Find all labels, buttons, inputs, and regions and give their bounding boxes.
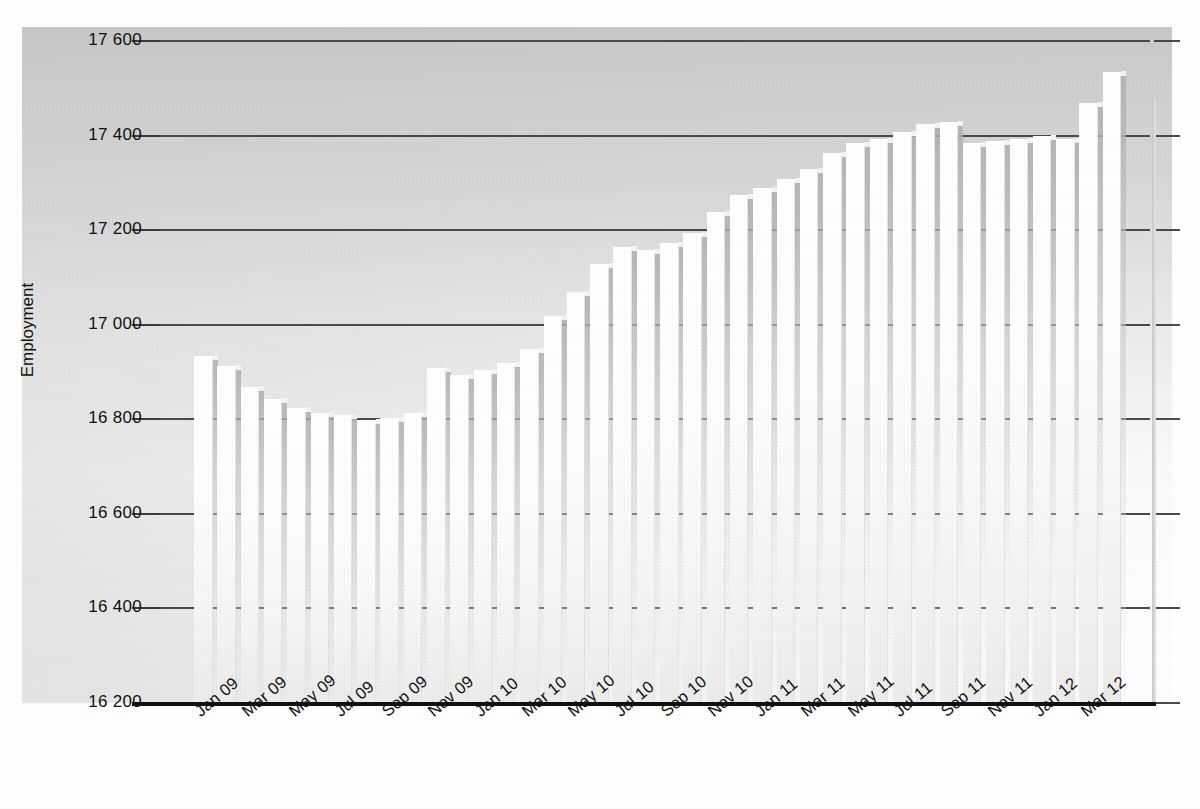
- bar-cap: [730, 195, 749, 198]
- bar: [567, 295, 586, 702]
- bar: [613, 250, 632, 702]
- y-axis-tick-label: 16 200: [88, 692, 142, 712]
- y-axis-tick-right: [1154, 40, 1180, 42]
- bar: [311, 416, 330, 702]
- bar-cap: [217, 366, 236, 369]
- bar-cap: [544, 316, 563, 319]
- bar: [1010, 142, 1029, 702]
- bar-top-face: [1121, 71, 1126, 76]
- y-axis-tick-right: [1154, 229, 1180, 231]
- y-axis-tick-label: 17 200: [88, 219, 142, 239]
- x-axis-label-group: Jan 09Mar 09May 09Jul 09Sep 09Nov 09Jan …: [160, 706, 1200, 809]
- bar: [450, 378, 469, 702]
- bar-cap: [660, 243, 679, 246]
- bar-cap: [846, 143, 865, 146]
- gridline: [160, 40, 1150, 42]
- bar-cap: [800, 169, 819, 172]
- bar: [893, 135, 912, 702]
- bar-cap: [870, 139, 889, 142]
- bar: [823, 156, 842, 702]
- bar: [660, 246, 679, 702]
- y-axis-tick-label: 16 400: [88, 597, 142, 617]
- bar: [544, 319, 563, 702]
- bar-cap: [1033, 136, 1052, 139]
- bar: [217, 369, 236, 702]
- bar: [590, 267, 609, 702]
- bar: [707, 215, 726, 702]
- bar: [1033, 139, 1052, 702]
- bar: [1079, 106, 1098, 702]
- bar-cap: [474, 370, 493, 373]
- bar: [753, 191, 772, 702]
- bar-top-face: [306, 407, 311, 412]
- bar-cap: [334, 415, 353, 418]
- bar: [637, 253, 656, 702]
- y-axis-tick-right: [1154, 513, 1180, 515]
- bar-cap: [753, 188, 772, 191]
- bar: [474, 373, 493, 702]
- y-axis-tick-right: [1154, 607, 1180, 609]
- bar-cap: [497, 363, 516, 366]
- bar-cap: [427, 368, 446, 371]
- bar-cap: [823, 153, 842, 156]
- bar: [334, 418, 353, 702]
- bar-top-face: [958, 121, 963, 126]
- bar-cap: [590, 264, 609, 267]
- bar-cap: [357, 420, 376, 423]
- bar-cap: [1010, 139, 1029, 142]
- y-axis-tick-label: 16 800: [88, 408, 142, 428]
- bar-cap: [916, 124, 935, 127]
- bar: [940, 125, 959, 702]
- y-axis-tick-right: [1154, 135, 1180, 137]
- bar: [800, 172, 819, 702]
- bar-cap: [637, 250, 656, 253]
- bar-cap: [1103, 72, 1122, 75]
- bar-top-face: [352, 414, 357, 419]
- bar: [264, 402, 283, 702]
- bar-cap: [683, 233, 702, 236]
- bar: [730, 198, 749, 702]
- bar: [404, 416, 423, 702]
- y-axis-tick-label: 17 600: [88, 30, 142, 50]
- bar-cap: [1079, 103, 1098, 106]
- bar: [777, 182, 796, 702]
- y-axis-tick-label: 17 400: [88, 125, 142, 145]
- bar: [194, 359, 213, 702]
- bar: [870, 142, 889, 702]
- gridline: [160, 135, 1150, 137]
- bar: [241, 390, 260, 702]
- y-axis-tick-right: [1154, 418, 1180, 420]
- y-axis-tick-right: [1154, 324, 1180, 326]
- bar-cap: [613, 247, 632, 250]
- bar-cap: [777, 179, 796, 182]
- bar: [497, 366, 516, 702]
- bar-cap: [707, 212, 726, 215]
- y-axis-tick-label: 16 600: [88, 503, 142, 523]
- bar-cap: [567, 292, 586, 295]
- bar: [520, 352, 539, 702]
- bar-cap: [287, 408, 306, 411]
- bar-cap: [450, 375, 469, 378]
- bar-cap: [311, 413, 330, 416]
- bar-cap: [940, 122, 959, 125]
- bar-cap: [986, 141, 1005, 144]
- bar-top-face: [446, 367, 451, 372]
- bar-top-face: [282, 398, 287, 403]
- bar-top-face: [213, 355, 218, 360]
- bar: [846, 146, 865, 702]
- bar: [287, 411, 306, 702]
- bar: [357, 423, 376, 702]
- right-axis-edge: [1152, 98, 1156, 704]
- y-axis-tick-right: [1154, 702, 1180, 704]
- bar-top-face: [236, 365, 241, 370]
- y-axis-title: Employment: [18, 283, 38, 377]
- bar-cap: [241, 387, 260, 390]
- plot-area: 17 60017 40017 20017 00016 80016 60016 4…: [160, 40, 1150, 702]
- bar-cap: [963, 143, 982, 146]
- bar-cap: [1056, 139, 1075, 142]
- bar: [427, 371, 446, 702]
- bar-cap: [380, 418, 399, 421]
- bar-cap: [520, 349, 539, 352]
- employment-bar-chart: Employment 17 60017 40017 20017 00016 80…: [0, 0, 1200, 809]
- bar: [963, 146, 982, 702]
